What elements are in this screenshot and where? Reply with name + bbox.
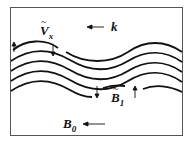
wavevector-label: k — [111, 20, 118, 33]
b0-arrow — [83, 122, 105, 126]
perturbed-field-label: B1 — [111, 91, 124, 108]
field-line-3 — [11, 61, 182, 79]
field-lines — [11, 41, 182, 97]
background-field-label: B0 — [63, 117, 76, 134]
velocity-label: Vx — [40, 24, 53, 41]
k-arrow — [87, 25, 104, 29]
diagram-canvas: ~ ~ — [0, 0, 191, 145]
